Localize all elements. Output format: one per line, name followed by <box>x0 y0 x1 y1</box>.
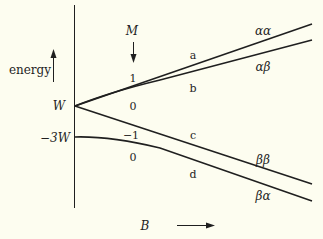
level-letter-a: a <box>190 50 197 61</box>
state-label-ba: βα <box>255 190 270 202</box>
m-value-4: 0 <box>130 152 137 163</box>
m-value-3: −1 <box>123 130 139 141</box>
m-value-1: 1 <box>130 73 137 84</box>
state-label-ab: αβ <box>255 61 270 73</box>
energy-diagram <box>0 0 323 239</box>
x-axis-label: B <box>141 220 150 232</box>
y-tick-w: W <box>53 100 65 112</box>
energy-arrow-icon <box>51 49 57 82</box>
state-label-bb: ββ <box>256 154 270 166</box>
m-value-2: 0 <box>130 101 137 112</box>
level-letter-d: d <box>189 169 196 180</box>
m-header: M <box>126 25 138 37</box>
b-field-arrow-icon <box>177 223 215 229</box>
state-label-aa: αα <box>255 25 271 37</box>
y-tick-minus-3w: −3W <box>40 132 70 144</box>
m-down-arrow-icon <box>131 42 137 63</box>
level-letter-c: c <box>190 130 196 141</box>
level-letter-b: b <box>189 83 196 94</box>
y-axis-label: energy <box>9 64 51 76</box>
